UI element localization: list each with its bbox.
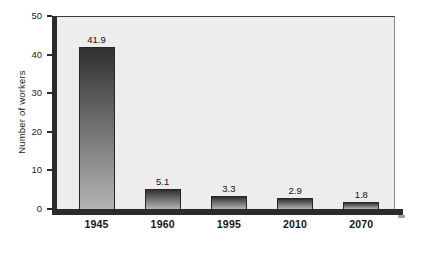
y-axis-line [52,16,57,215]
x-tick-label: 1995 [207,218,251,230]
bar-value-label: 41.9 [77,34,117,46]
bar [145,189,181,209]
y-tick-mark [47,169,52,171]
y-tick-label: 20 [16,126,42,138]
bar-value-label: 1.8 [341,189,381,201]
y-tick-mark [47,208,52,210]
axis-shadow [398,215,405,218]
y-tick-label: 50 [16,10,42,22]
bar [277,198,313,209]
y-tick-mark [47,15,52,17]
y-tick-mark [47,131,52,133]
y-tick-mark [47,92,52,94]
bar [79,47,115,209]
bar [343,202,379,209]
bar-value-label: 2.9 [275,185,315,197]
y-axis-title: Number of workers [16,70,27,154]
y-tick-label: 30 [16,87,42,99]
y-tick-label: 10 [16,164,42,176]
bar [211,196,247,209]
y-tick-label: 0 [16,203,42,215]
x-tick-label: 2070 [339,218,383,230]
y-tick-mark [47,54,52,56]
bar-value-label: 5.1 [143,176,183,188]
x-tick-label: 1960 [141,218,185,230]
bar-chart: Number of workers 01020304050 41.919455.… [0,0,423,254]
x-tick-label: 1945 [75,218,119,230]
x-axis-line [52,209,403,215]
bar-value-label: 3.3 [209,183,249,195]
x-tick-label: 2010 [273,218,317,230]
y-tick-label: 40 [16,49,42,61]
